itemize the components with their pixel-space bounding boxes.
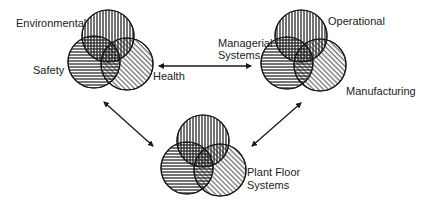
arrow-left-bottom bbox=[104, 102, 153, 146]
label-environmental: Environmental bbox=[16, 17, 86, 30]
label-operational: Operational bbox=[328, 15, 385, 28]
arrow-right-bottom bbox=[252, 103, 301, 146]
venn-bottom bbox=[161, 115, 246, 196]
label-health: Health bbox=[153, 70, 185, 83]
label-managerial-systems: Systems bbox=[218, 49, 260, 62]
diagram-canvas bbox=[0, 0, 426, 203]
label-plant-floor: Plant Floor bbox=[247, 166, 300, 179]
label-manufacturing: Manufacturing bbox=[346, 85, 416, 98]
label-plant-floor-systems: Systems bbox=[247, 179, 289, 192]
label-safety: Safety bbox=[33, 64, 64, 77]
